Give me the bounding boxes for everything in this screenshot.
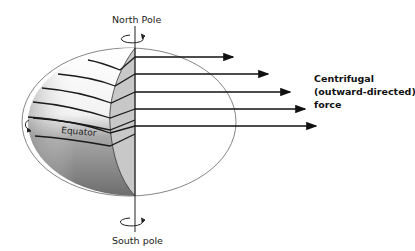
south-pole-label: South pole [112,235,163,246]
north-pole-label: North Pole [112,14,161,25]
earth-centrifugal-diagram: North Pole South pole Equator Centrifuga… [0,0,415,251]
force-label-line-1: Centrifugal [314,73,374,84]
north-rotation-icon [121,34,145,43]
force-label-line-2: (outward-directed) [314,86,415,97]
south-rotation-icon [120,218,145,226]
force-label-line-3: force [314,99,341,110]
